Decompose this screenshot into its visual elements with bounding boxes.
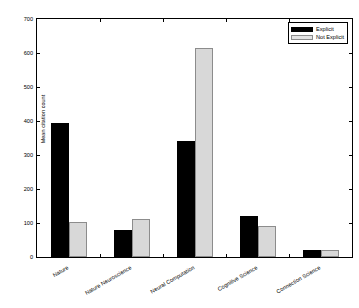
bar-explicit — [240, 216, 258, 257]
x-tick-mark — [100, 254, 101, 257]
y-tick-label: 400 — [15, 118, 33, 124]
legend: Explicit Not Explicit — [288, 22, 348, 44]
plot-area: Mean citation count 01002003004005006007… — [36, 18, 353, 258]
legend-item: Explicit — [291, 25, 344, 33]
x-tick-mark — [226, 254, 227, 257]
y-axis-title: Mean citation count — [40, 39, 46, 199]
y-tick-mark — [37, 121, 40, 122]
legend-label-not-explicit: Not Explicit — [316, 34, 344, 40]
bar-explicit — [51, 123, 69, 257]
bar-not-explicit — [321, 250, 339, 257]
y-tick-mark — [37, 53, 40, 54]
y-tick-mark — [349, 121, 352, 122]
x-tick-mark — [163, 254, 164, 257]
y-tick-mark — [37, 87, 40, 88]
legend-item: Not Explicit — [291, 33, 344, 41]
bar-not-explicit — [132, 219, 150, 257]
figure-canvas: Mean citation count 01002003004005006007… — [0, 0, 359, 308]
y-tick-mark — [349, 155, 352, 156]
y-tick-label: 100 — [15, 220, 33, 226]
bar-not-explicit — [69, 222, 87, 257]
x-tick-mark — [289, 254, 290, 257]
x-tick-label: Nature — [0, 264, 69, 308]
x-tick-mark — [163, 19, 164, 22]
y-tick-label: 700 — [15, 16, 33, 22]
y-tick-label: 300 — [15, 152, 33, 158]
y-tick-mark — [37, 223, 40, 224]
y-tick-label: 600 — [15, 50, 33, 56]
y-tick-mark — [349, 53, 352, 54]
bar-explicit — [303, 250, 321, 257]
bar-not-explicit — [195, 48, 213, 257]
y-tick-mark — [349, 189, 352, 190]
y-tick-mark — [349, 87, 352, 88]
bar-explicit — [177, 141, 195, 257]
bar-explicit — [114, 230, 132, 257]
y-tick-mark — [349, 223, 352, 224]
y-tick-mark — [37, 155, 40, 156]
y-tick-label: 0 — [15, 254, 33, 260]
x-tick-mark — [226, 19, 227, 22]
bar-not-explicit — [258, 226, 276, 257]
legend-label-explicit: Explicit — [316, 26, 334, 32]
legend-swatch-not-explicit — [291, 35, 313, 40]
y-tick-label: 500 — [15, 84, 33, 90]
legend-swatch-explicit — [291, 27, 313, 32]
x-tick-mark — [100, 19, 101, 22]
y-tick-mark — [37, 189, 40, 190]
y-tick-label: 200 — [15, 186, 33, 192]
